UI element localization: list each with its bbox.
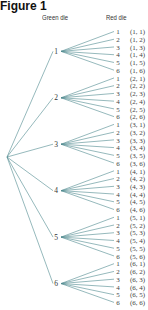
root-branch-line-4 <box>7 157 53 191</box>
red-die-label: 6 <box>116 299 120 307</box>
green-die-label-2: 2 <box>54 93 58 102</box>
root-branch-line-3 <box>7 144 53 157</box>
green-die-label-6: 6 <box>54 279 58 288</box>
branch-leaf-line <box>61 279 114 283</box>
branch-leaf-line <box>61 171 114 191</box>
branch-leaf-line <box>61 124 114 144</box>
branch-leaf-line <box>61 217 114 237</box>
branch-leaf-line <box>61 93 114 97</box>
branch-leaf-line <box>61 132 114 144</box>
branch-leaf-line <box>61 86 114 98</box>
root-branch-line-2 <box>7 98 53 157</box>
branch-leaf-line <box>61 47 114 51</box>
green-die-label-5: 5 <box>54 233 58 242</box>
green-die-label-4: 4 <box>54 186 58 195</box>
root-branch-line-1 <box>7 51 53 157</box>
root-branch-line-5 <box>7 157 53 237</box>
branch-leaf-line <box>61 233 114 237</box>
branch-leaf-line <box>61 271 114 283</box>
branch-leaf-line <box>61 78 114 98</box>
outcome-pair: (6, 6) <box>130 299 146 307</box>
branch-leaf-line <box>61 140 114 144</box>
root-branch-line-6 <box>7 157 53 284</box>
green-die-label-3: 3 <box>54 140 58 149</box>
branch-leaf-line <box>61 179 114 191</box>
tree-diagram: 11(1, 1)2(1, 2)3(1, 3)4(1, 4)5(1, 5)6(1,… <box>0 0 148 310</box>
branch-leaf-line <box>61 264 114 284</box>
branch-leaf-line <box>61 39 114 51</box>
branch-leaf-line <box>61 32 114 52</box>
branch-leaf-line <box>61 186 114 190</box>
branch-leaf-line <box>61 225 114 237</box>
green-die-label-1: 1 <box>54 47 58 56</box>
